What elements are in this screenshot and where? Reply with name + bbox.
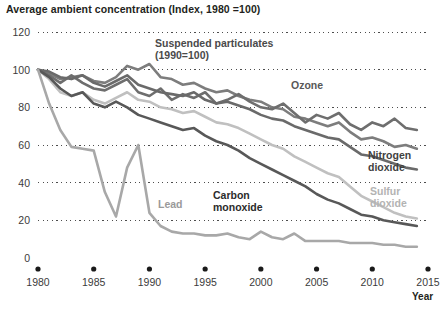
x-axis-tick-label: 2010 <box>352 276 392 288</box>
series-label-sulfur-dioxide: Sulfur dioxide <box>370 186 407 210</box>
x-axis-tick-label: 2000 <box>241 276 281 288</box>
x-axis-title: Year <box>412 291 433 302</box>
x-axis-tick-label: 1995 <box>185 276 225 288</box>
series-lines <box>38 64 417 247</box>
series-label-ozone: Ozone <box>291 80 323 92</box>
y-axis-tick-label: 20 <box>2 214 30 226</box>
series-label-carbon-monoxide-line1: Carbon <box>213 190 263 202</box>
x-axis-tick-dot <box>147 266 152 271</box>
x-axis-tick-dot <box>91 266 96 271</box>
x-axis-tick-dot <box>258 266 263 271</box>
series-label-nitrogen-dioxide-line1: Nitrogen <box>368 150 411 162</box>
x-axis-tick-dots <box>35 266 430 271</box>
series-label-suspended-particulates-line1: Suspended particulates <box>155 38 273 50</box>
series-label-sulfur-dioxide-line2: dioxide <box>370 198 407 210</box>
series-label-sulfur-dioxide-line1: Sulfur <box>370 186 407 198</box>
x-axis-tick-dot <box>314 266 319 271</box>
series-label-nitrogen-dioxide-line2: dioxide <box>368 162 411 174</box>
series-label-suspended-particulates-line2: (1990=100) <box>155 50 273 62</box>
x-axis-tick-dot <box>35 266 40 271</box>
series-label-nitrogen-dioxide: Nitrogen dioxide <box>368 150 411 174</box>
series-label-carbon-monoxide: Carbon monoxide <box>213 190 263 214</box>
x-axis-tick-dot <box>203 266 208 271</box>
x-axis-tick-label: 1990 <box>129 276 169 288</box>
series-label-carbon-monoxide-line2: monoxide <box>213 202 263 214</box>
x-axis-tick-label: 2015 <box>408 276 444 288</box>
x-axis-tick-dot <box>370 266 375 271</box>
y-axis-tick-label: 60 <box>2 139 30 151</box>
y-axis-tick-label: 120 <box>2 26 30 38</box>
series-label-lead: Lead <box>158 199 183 211</box>
x-axis-tick-label: 1980 <box>18 276 58 288</box>
x-axis-tick-label: 1985 <box>74 276 114 288</box>
y-axis-tick-label: 40 <box>2 177 30 189</box>
y-axis-tick-label: 0 <box>2 252 30 264</box>
y-axis-tick-label: 100 <box>2 64 30 76</box>
series-line-suspended-particulates <box>38 64 417 149</box>
y-axis-tick-label: 80 <box>2 101 30 113</box>
series-label-suspended-particulates: Suspended particulates (1990=100) <box>155 38 273 62</box>
x-axis-tick-dot <box>425 266 430 271</box>
x-axis-tick-label: 2005 <box>297 276 337 288</box>
